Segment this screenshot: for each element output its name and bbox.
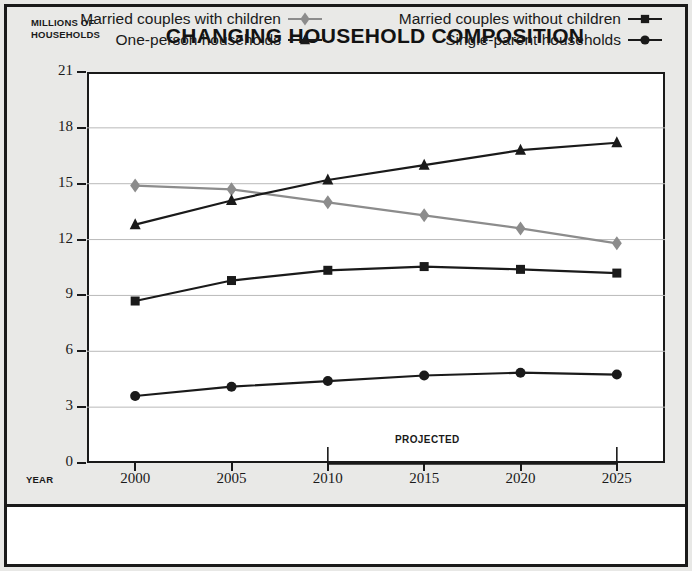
legend-label: One-person households — [116, 31, 281, 49]
legend-label: Single-parent households — [445, 31, 621, 49]
y-tick-label: 0 — [39, 453, 73, 470]
triangle-icon — [288, 33, 322, 47]
square-icon — [628, 12, 662, 26]
circle-marker — [130, 391, 140, 401]
x-tick-label: 2020 — [486, 470, 556, 487]
x-tick-label: 2025 — [582, 470, 652, 487]
y-tick-label: 12 — [39, 230, 73, 247]
circle-marker — [323, 376, 333, 386]
legend-item-1: Married couples without children — [330, 10, 678, 28]
diamond-marker — [516, 221, 526, 235]
legend-item-0: Married couples with children — [0, 10, 330, 28]
square-marker — [516, 265, 525, 274]
legend-swatch-svg — [288, 33, 322, 47]
x-tick-label: 2000 — [100, 470, 170, 487]
diamond-marker — [300, 12, 309, 25]
square-marker — [131, 297, 140, 306]
diamond-marker — [612, 236, 622, 250]
circle-marker — [227, 382, 237, 392]
diamond-marker — [323, 195, 333, 209]
legend-swatch-svg — [628, 33, 662, 47]
square-marker — [420, 262, 429, 271]
chart-page: MILLIONS OF HOUSEHOLDS CHANGING HOUSEHOL… — [0, 0, 692, 571]
y-tick-label: 21 — [39, 62, 73, 79]
legend-panel — [7, 507, 685, 564]
x-tick-label: 2005 — [197, 470, 267, 487]
plot-series-svg — [87, 72, 665, 463]
y-tick-label: 6 — [39, 341, 73, 358]
legend-label: Married couples without children — [399, 10, 621, 28]
y-tick-label: 18 — [39, 118, 73, 135]
y-tick-mark — [77, 71, 86, 73]
y-tick-mark — [77, 406, 86, 408]
square-marker — [641, 14, 649, 22]
series-3 — [130, 368, 622, 401]
y-tick-mark — [77, 462, 86, 464]
legend-label: Married couples with children — [80, 10, 281, 28]
projected-bracket — [87, 430, 665, 466]
diamond-marker — [419, 208, 429, 222]
y-tick-mark — [77, 350, 86, 352]
circle-marker — [516, 368, 526, 378]
series-2 — [130, 136, 623, 229]
series-line — [135, 186, 617, 244]
legend-swatch-svg — [288, 12, 322, 26]
series-line — [135, 373, 617, 396]
y-tick-mark — [77, 127, 86, 129]
circle-marker — [419, 370, 429, 380]
y-tick-mark — [77, 183, 86, 185]
y-tick-mark — [77, 294, 86, 296]
square-marker — [612, 269, 621, 278]
legend-item-2: One-person households — [0, 31, 330, 49]
diamond-marker — [130, 179, 140, 193]
triangle-marker — [611, 136, 622, 147]
square-marker — [323, 266, 332, 275]
square-marker — [227, 276, 236, 285]
legend: Married couples with childrenMarried cou… — [0, 8, 678, 50]
circle-icon — [628, 33, 662, 47]
y-tick-label: 3 — [39, 397, 73, 414]
y-tick-label: 9 — [39, 285, 73, 302]
series-1 — [131, 262, 622, 305]
circle-marker — [640, 35, 649, 44]
x-tick-label: 2010 — [293, 470, 363, 487]
x-axis-caption: YEAR — [26, 474, 53, 485]
legend-swatch-svg — [628, 12, 662, 26]
x-tick-label: 2015 — [389, 470, 459, 487]
y-tick-label: 15 — [39, 174, 73, 191]
diamond-icon — [288, 12, 322, 26]
circle-marker — [612, 370, 622, 380]
legend-item-3: Single-parent households — [330, 31, 678, 49]
y-tick-mark — [77, 239, 86, 241]
